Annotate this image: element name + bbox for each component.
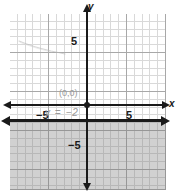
coordinate-plane-figure: y x 5 −5 −5 5 (0,0) y = −2: [0, 0, 180, 193]
boundary-right-arrow-icon: [161, 116, 170, 126]
x-axis-tick-label-5: 5: [126, 110, 132, 121]
boundary-equation-label: y = −2: [45, 108, 79, 118]
boundary-line-y-equals-negative-2: [8, 119, 164, 122]
origin-coordinate-label: (0,0): [59, 89, 78, 98]
origin-point-marker: [84, 102, 90, 108]
y-axis-tick-label-negative-5: −5: [68, 140, 81, 151]
y-axis: [86, 10, 88, 184]
pencil-sketch-curve: [18, 39, 66, 57]
shaded-solution-region: [10, 121, 166, 190]
x-axis-label: x: [169, 99, 175, 109]
y-axis-label: y: [88, 2, 94, 12]
y-axis-down-arrow-icon: [83, 183, 91, 191]
boundary-left-arrow-icon: [1, 116, 10, 126]
y-axis-tick-label-5: 5: [71, 36, 77, 47]
x-axis-left-arrow-icon: [3, 101, 11, 109]
